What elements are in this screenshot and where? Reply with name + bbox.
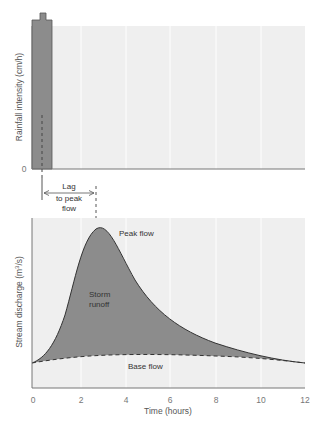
- storm-runoff-label-line1: Storm: [89, 290, 111, 299]
- lag-label-line2: to peak: [56, 194, 83, 203]
- peak-flow-label: Peak flow: [119, 229, 154, 238]
- rainfall-plot-background: [32, 26, 305, 169]
- x-tick-6: 6: [168, 395, 173, 405]
- hydrograph-figure: 0 Rainfall intensity (cm/h) Lag to peak …: [0, 0, 326, 429]
- storm-runoff-label-line2: runoff: [89, 300, 110, 309]
- rainfall-chart: 0 Rainfall intensity (cm/h): [14, 13, 305, 178]
- x-tick-8: 8: [214, 395, 219, 405]
- lag-label-line1: Lag: [62, 182, 75, 191]
- x-axis-label: Time (hours): [144, 406, 192, 416]
- x-tick-12: 12: [300, 395, 310, 405]
- x-tick-10: 10: [256, 395, 266, 405]
- lag-label-line3: flow: [62, 204, 76, 213]
- discharge-chart: 0 2 4 6 8 10 12 Time (hours) Stream disc…: [14, 218, 310, 416]
- rainfall-y-axis-label: Rainfall intensity (cm/h): [14, 53, 24, 142]
- x-tick-2: 2: [79, 395, 84, 405]
- base-flow-label: Base flow: [128, 362, 163, 371]
- discharge-y-axis-label: Stream discharge (m3/s): [14, 256, 24, 348]
- x-tick-0: 0: [31, 395, 36, 405]
- rainfall-zero-label: 0: [22, 164, 27, 174]
- x-tick-labels: 0 2 4 6 8 10 12: [31, 395, 310, 405]
- x-tick-4: 4: [124, 395, 129, 405]
